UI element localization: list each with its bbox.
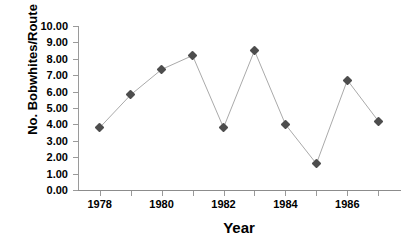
y-axis-line (78, 26, 79, 191)
chart-figure: No. Bobwhites/Route 0.001.002.003.004.00… (0, 0, 419, 250)
y-tick-label: 3.00 (20, 136, 68, 147)
x-tick-mark (131, 191, 132, 196)
data-point-marker (280, 119, 290, 129)
x-tick-mark (316, 191, 317, 196)
x-tick-label: 1986 (322, 198, 372, 210)
y-tick-mark (73, 157, 78, 158)
y-tick-mark (73, 124, 78, 125)
data-point-marker (188, 51, 198, 61)
data-point-marker (250, 46, 260, 56)
y-tick-label: 6.00 (20, 87, 68, 98)
y-tick-mark (73, 26, 78, 27)
data-point-marker (219, 123, 229, 133)
x-tick-label: 1982 (199, 198, 249, 210)
x-tick-label: 1980 (137, 198, 187, 210)
x-tick-mark (285, 191, 286, 196)
data-point-marker (342, 75, 352, 85)
x-tick-mark (254, 191, 255, 196)
y-tick-label: 2.00 (20, 152, 68, 163)
data-point-marker (373, 116, 383, 126)
y-tick-mark (73, 190, 78, 191)
y-tick-label: 5.00 (20, 103, 68, 114)
x-tick-mark (100, 191, 101, 196)
y-tick-label: 9.00 (20, 37, 68, 48)
y-tick-label: 4.00 (20, 119, 68, 130)
y-tick-mark (73, 59, 78, 60)
x-tick-label: 1984 (260, 198, 310, 210)
x-tick-mark (224, 191, 225, 196)
y-tick-mark (73, 174, 78, 175)
x-tick-mark (162, 191, 163, 196)
data-point-marker (95, 123, 105, 133)
y-tick-mark (73, 108, 78, 109)
y-tick-mark (73, 141, 78, 142)
y-tick-label: 10.00 (20, 21, 68, 32)
data-point-marker (126, 90, 136, 100)
data-point-marker (157, 65, 167, 75)
x-axis-title: Year (78, 219, 400, 236)
y-tick-label: 7.00 (20, 70, 68, 81)
y-tick-mark (73, 92, 78, 93)
data-point-marker (311, 159, 321, 169)
y-tick-mark (73, 42, 78, 43)
x-tick-mark (347, 191, 348, 196)
x-tick-mark (378, 191, 379, 196)
y-tick-label: 0.00 (20, 185, 68, 196)
x-tick-mark (193, 191, 194, 196)
x-axis-line (78, 190, 401, 191)
y-tick-label: 8.00 (20, 54, 68, 65)
y-tick-mark (73, 75, 78, 76)
x-tick-label: 1978 (75, 198, 125, 210)
y-tick-label: 1.00 (20, 169, 68, 180)
